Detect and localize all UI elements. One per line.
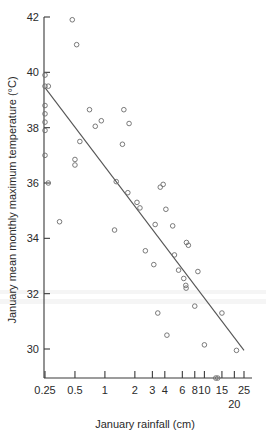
data-point-marker <box>73 157 78 162</box>
data-point-marker <box>184 286 189 291</box>
data-point-marker <box>93 124 98 129</box>
y-tick-label: 38 <box>27 122 39 134</box>
data-point-marker <box>43 103 48 108</box>
y-tick-label: 42 <box>27 11 39 23</box>
x-axis-title: January rainfall (cm) <box>95 418 195 430</box>
regression-line-segment <box>45 88 244 351</box>
data-point-marker <box>99 118 104 123</box>
x-tick-label: 25 <box>238 384 250 396</box>
x-tick-labels: 0.250.512346810152025 <box>34 384 250 410</box>
data-point-marker <box>155 311 160 316</box>
data-point-marker <box>70 17 75 22</box>
data-point-marker <box>112 228 117 233</box>
x-tick-label: 0.5 <box>67 384 82 396</box>
y-tick-label: 36 <box>27 177 39 189</box>
data-point-marker <box>135 200 140 205</box>
data-point-marker <box>78 139 83 144</box>
x-tick-label: 15 <box>216 384 228 396</box>
data-point-marker <box>234 348 239 353</box>
data-point-marker <box>87 107 92 112</box>
data-points <box>43 17 239 380</box>
data-point-marker <box>143 248 148 253</box>
data-point-marker <box>151 262 156 267</box>
data-point-marker <box>164 207 169 212</box>
data-point-marker <box>161 182 166 187</box>
data-point-marker <box>43 112 48 117</box>
data-point-marker <box>153 222 158 227</box>
regression-line <box>45 88 244 351</box>
data-point-marker <box>170 224 175 229</box>
data-point-marker <box>196 269 201 274</box>
data-point-marker <box>220 311 225 316</box>
data-point-marker <box>126 190 131 195</box>
data-point-marker <box>43 153 48 158</box>
y-tick-label: 34 <box>27 232 39 244</box>
x-tick-label: 6 <box>179 384 185 396</box>
x-tick-label: 4 <box>162 384 168 396</box>
x-tick-label: 0.25 <box>34 384 55 396</box>
x-tick-label: 20 <box>228 398 240 410</box>
y-tick-label: 40 <box>27 66 39 78</box>
data-point-marker <box>165 333 170 338</box>
tick-marks <box>44 17 244 378</box>
plot-canvas: 0.250.512346810152025 30323436384042 Jan… <box>0 0 266 442</box>
scatter-plot-figure: 0.250.512346810152025 30323436384042 Jan… <box>0 0 266 442</box>
x-tick-label: 2 <box>132 384 138 396</box>
data-point-marker <box>138 206 143 211</box>
data-point-marker <box>43 120 48 125</box>
data-point-marker <box>202 343 207 348</box>
data-point-marker <box>74 42 79 47</box>
data-point-marker <box>181 276 186 281</box>
x-tick-label: 3 <box>149 384 155 396</box>
data-point-marker <box>192 304 197 309</box>
x-tick-label: 8 <box>192 384 198 396</box>
data-point-marker <box>73 163 78 168</box>
data-point-marker <box>176 268 181 273</box>
data-point-marker <box>43 128 48 133</box>
data-point-marker <box>127 121 132 126</box>
data-point-marker <box>46 84 51 89</box>
x-tick-label: 10 <box>198 384 210 396</box>
y-axis-title: January mean monthly maximum temperature… <box>6 76 18 323</box>
axes <box>44 17 252 378</box>
y-tick-label: 30 <box>27 343 39 355</box>
y-tick-label: 32 <box>27 288 39 300</box>
data-point-marker <box>43 73 48 78</box>
data-point-marker <box>172 253 177 258</box>
background-bands <box>0 290 266 304</box>
data-point-marker <box>158 185 163 190</box>
data-point-marker <box>122 107 127 112</box>
data-point-marker <box>120 142 125 147</box>
x-tick-label: 1 <box>102 384 108 396</box>
data-point-marker <box>57 219 62 224</box>
